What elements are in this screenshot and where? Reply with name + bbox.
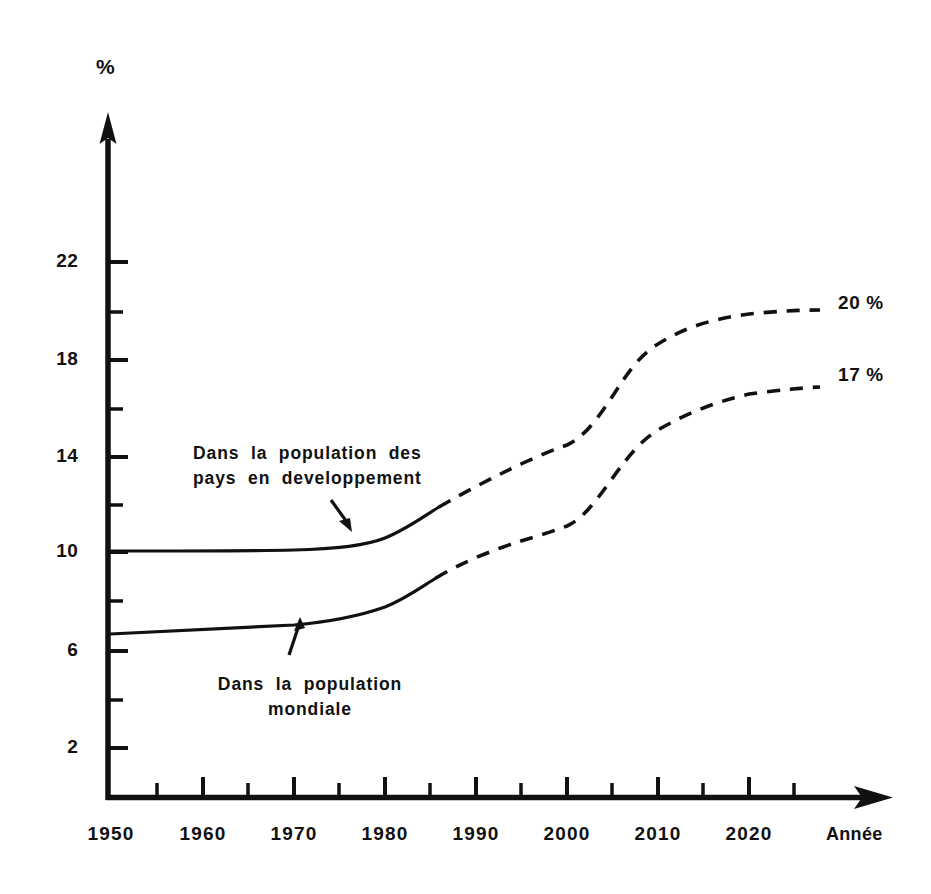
x-tick-label-2020: 2020 (704, 823, 794, 845)
series-world-dashed (436, 387, 820, 578)
chart-plot-area (0, 0, 931, 894)
series-developing-dashed (439, 310, 820, 507)
annotation-developing-line1: Dans la population des (193, 441, 422, 466)
x-tick-label-1960: 1960 (158, 823, 248, 845)
end-label-developing: 20 % (838, 292, 884, 314)
x-tick-label-2000: 2000 (522, 823, 612, 845)
annotation-developing-line2: pays en developpement (193, 466, 422, 491)
x-axis-group (106, 786, 893, 809)
x-tick-label-1950: 1950 (66, 823, 156, 845)
x-tick-label-1990: 1990 (431, 823, 521, 845)
x-tick-label-2010: 2010 (613, 823, 703, 845)
x-tick-label-1970: 1970 (249, 823, 339, 845)
y-tick-label-2: 2 (32, 736, 78, 758)
series-developing-solid (110, 507, 439, 551)
series-world-solid (110, 578, 436, 634)
x-axis-title: Année (826, 824, 883, 845)
y-tick-label-22: 22 (32, 250, 78, 272)
chart-container: % 22 18 14 10 6 2 1950 1960 1970 1980 19… (0, 0, 931, 894)
x-axis-major-ticks (203, 777, 749, 797)
y-tick-label-14: 14 (32, 445, 78, 467)
x-tick-label-1980: 1980 (340, 823, 430, 845)
y-tick-label-18: 18 (32, 348, 78, 370)
y-tick-label-6: 6 (32, 639, 78, 661)
annotation-arrow-developing (331, 500, 352, 532)
end-label-world: 17 % (838, 364, 884, 386)
y-tick-label-10: 10 (32, 540, 78, 562)
annotation-world-line2: mondiale (190, 697, 430, 722)
y-axis-unit-label: % (96, 55, 115, 79)
annotation-world-line1: Dans la population (190, 672, 430, 697)
